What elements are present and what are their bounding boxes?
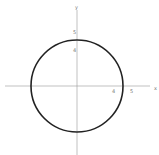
x-tick-4: 4 xyxy=(112,88,115,94)
x-axis-label: x xyxy=(154,85,157,91)
y-tick-5: 5 xyxy=(73,29,76,35)
x-tick-5: 5 xyxy=(130,88,133,94)
y-axis-label: y xyxy=(75,4,78,11)
coordinate-diagram: y x 5 4 4 5 xyxy=(0,0,159,155)
y-tick-4: 4 xyxy=(73,47,76,53)
